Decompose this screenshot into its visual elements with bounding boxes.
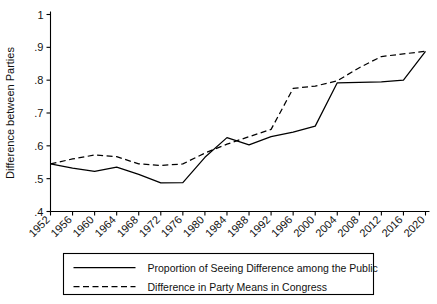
y-tick-label: .6 <box>34 140 43 152</box>
x-tick-label: 1988 <box>225 213 251 239</box>
line-chart: .4.5.6.7.8.91Difference between Parties1… <box>0 0 437 304</box>
legend-item-1[interactable]: Proportion of Seeing Difference among th… <box>74 262 378 274</box>
x-tick-label: 1956 <box>48 213 74 239</box>
x-tick-label: 1984 <box>203 213 229 239</box>
y-tick-label: 1 <box>37 9 43 21</box>
x-tick-label: 1992 <box>247 213 273 239</box>
series-line-2 <box>51 51 426 165</box>
x-tick-label: 1952 <box>26 213 52 239</box>
x-tick-label: 1972 <box>136 213 162 239</box>
y-tick-label: .8 <box>34 74 43 86</box>
legend-label: Proportion of Seeing Difference among th… <box>148 262 378 274</box>
x-tick-label: 2008 <box>335 213 361 239</box>
x-tick-label: 1980 <box>181 213 207 239</box>
x-tick-label: 2020 <box>401 213 427 239</box>
x-tick-label: 2012 <box>357 213 383 239</box>
x-tick-label: 2004 <box>313 213 339 239</box>
legend-item-2[interactable]: Difference in Party Means in Congress <box>74 281 328 293</box>
y-tick-label: .7 <box>34 107 43 119</box>
chart-figure: .4.5.6.7.8.91Difference between Parties1… <box>0 0 437 304</box>
x-tick-label: 1964 <box>92 213 118 239</box>
legend-label: Difference in Party Means in Congress <box>148 281 328 293</box>
y-tick-label: .5 <box>34 173 43 185</box>
series-line-1 <box>51 51 426 183</box>
y-axis-title: Difference between Parties <box>4 47 16 179</box>
x-tick-label: 2016 <box>379 213 405 239</box>
x-tick-label: 2000 <box>291 213 317 239</box>
x-tick-label: 1968 <box>114 213 140 239</box>
x-tick-label: 1976 <box>158 213 184 239</box>
x-tick-label: 1960 <box>70 213 96 239</box>
x-tick-label: 1996 <box>269 213 295 239</box>
y-tick-label: .9 <box>34 41 43 53</box>
